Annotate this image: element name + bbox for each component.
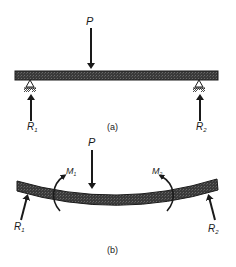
load-label-p-b: P <box>88 136 96 148</box>
reaction-label-r2-a: R2 <box>196 121 207 133</box>
reaction-label-r2-b: R2 <box>208 223 219 235</box>
part-b-deflected-beam: P M1 M2 R1 R2 (b) <box>14 136 219 255</box>
moment-label-m1: M1 <box>66 166 77 177</box>
load-label-p: P <box>86 15 94 27</box>
caption-a: (a) <box>107 122 118 132</box>
reaction-arrow-r2-b <box>209 197 215 220</box>
pin-support-right-icon <box>193 80 205 92</box>
beam-a <box>15 71 218 80</box>
reaction-arrow-r1-b <box>21 197 27 220</box>
reaction-label-r1-b: R1 <box>14 221 25 233</box>
part-a-simply-supported-beam: P R1 R2 (a) <box>15 15 218 133</box>
caption-b: (b) <box>107 245 118 255</box>
beam-diagram: P R1 R2 (a) P <box>0 0 236 267</box>
reaction-label-r1-a: R1 <box>27 121 38 133</box>
beam-b-deflected <box>17 179 218 205</box>
moment-label-m2: M2 <box>152 166 163 177</box>
pin-support-left-icon <box>24 80 36 92</box>
